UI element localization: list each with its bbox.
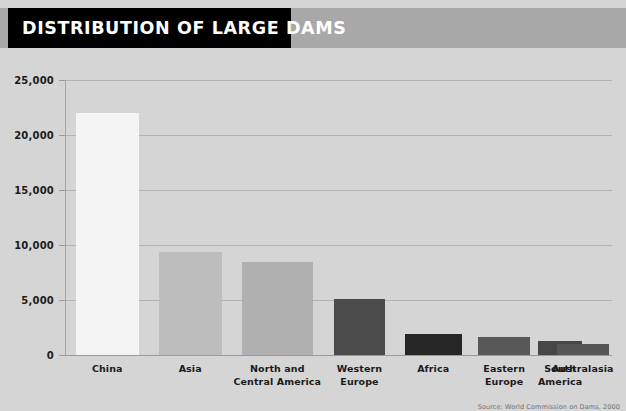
bar [159, 252, 222, 355]
x-axis-label-line: America [521, 376, 600, 389]
y-axis-line [65, 80, 66, 355]
page-title: DISTRIBUTION OF LARGE DAMS [8, 18, 346, 38]
chart-page: DISTRIBUTION OF LARGE DAMS 05,00010,0001… [0, 0, 626, 411]
bar-chart: 05,00010,00015,00020,00025,000 ChinaAsia… [0, 56, 626, 396]
source-note: Source: World Commission on Dams, 2000 [478, 403, 620, 411]
y-axis-tick-label: 20,000 [14, 130, 54, 141]
y-axis-tick [59, 300, 66, 301]
y-axis-tick-label: 15,000 [14, 185, 54, 196]
y-axis-tick-label: 25,000 [14, 75, 54, 86]
y-axis-tick-label: 5,000 [21, 295, 54, 306]
gridline [66, 355, 612, 356]
x-axis-label: North andCentral America [224, 363, 330, 388]
bar [242, 262, 313, 356]
bar [478, 337, 530, 355]
gridline [66, 245, 612, 246]
x-axis-label-line: North and [224, 363, 330, 376]
bar [405, 334, 462, 355]
bar [76, 113, 139, 355]
y-axis-tick-label: 10,000 [14, 240, 54, 251]
gridline [66, 190, 612, 191]
gridline [66, 135, 612, 136]
bar [557, 344, 609, 355]
x-axis-label: Australasia [539, 363, 626, 376]
title-block: DISTRIBUTION OF LARGE DAMS [8, 8, 291, 48]
y-axis-tick [59, 245, 66, 246]
y-axis-tick-label: 0 [47, 350, 54, 361]
x-axis-label-line: Australasia [539, 363, 626, 376]
y-axis-tick [59, 355, 66, 356]
x-axis-label-line: Europe [316, 376, 403, 389]
y-axis-tick [59, 135, 66, 136]
bar [334, 299, 386, 355]
y-axis-tick [59, 190, 66, 191]
y-axis-tick [59, 80, 66, 81]
plot-area: 05,00010,00015,00020,00025,000 ChinaAsia… [66, 80, 612, 355]
x-axis-label-line: Central America [224, 376, 330, 389]
gridline [66, 80, 612, 81]
